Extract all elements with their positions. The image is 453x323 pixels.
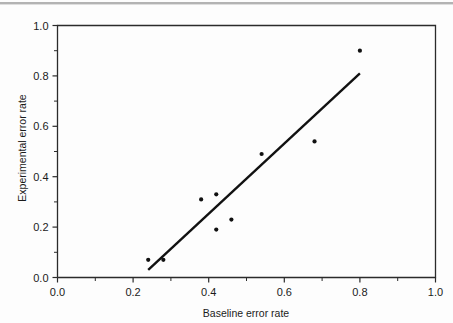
y-tick-label: 0.6 [33, 120, 48, 132]
data-point [146, 258, 150, 262]
y-tick-label: 0.2 [33, 221, 48, 233]
trend-line-segment [148, 73, 360, 270]
data-point [214, 192, 218, 196]
y-axis-ticks [53, 26, 58, 278]
axes-box [58, 26, 436, 278]
data-point [358, 49, 362, 53]
data-points [146, 49, 362, 262]
trend-line [148, 73, 360, 270]
data-point [161, 258, 165, 262]
y-tick-label: 0.4 [33, 171, 48, 183]
y-axis-title: Experimental error rate [16, 94, 28, 202]
data-point [312, 139, 316, 143]
data-point [214, 228, 218, 232]
x-axis-title: Baseline error rate [203, 307, 290, 319]
scatter-plot: 0.00.20.40.60.81.0 0.00.20.40.60.81.0 Ba… [0, 0, 453, 323]
data-point [260, 152, 264, 156]
y-tick-label: 0.0 [33, 272, 48, 284]
y-axis-tick-labels: 0.00.20.40.60.81.0 [33, 20, 48, 284]
x-tick-label: 0.4 [201, 286, 216, 298]
y-tick-label: 0.8 [33, 70, 48, 82]
x-tick-label: 0.8 [352, 286, 367, 298]
x-tick-label: 1.0 [428, 286, 443, 298]
x-tick-label: 0.6 [277, 286, 292, 298]
data-point [199, 197, 203, 201]
data-point [229, 217, 233, 221]
y-tick-label: 1.0 [33, 20, 48, 32]
x-axis-ticks [58, 278, 436, 283]
x-tick-label: 0.2 [125, 286, 140, 298]
x-axis-tick-labels: 0.00.20.40.60.81.0 [50, 286, 443, 298]
plot-frame [58, 26, 436, 278]
x-tick-label: 0.0 [50, 286, 65, 298]
figure-page: 0.00.20.40.60.81.0 0.00.20.40.60.81.0 Ba… [0, 0, 453, 323]
